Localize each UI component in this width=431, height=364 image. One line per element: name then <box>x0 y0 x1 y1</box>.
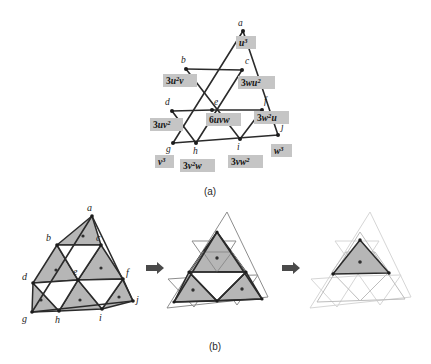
step-2-dot-top <box>215 256 218 259</box>
step-2-dot-right <box>240 287 243 290</box>
b-vertex-label-g: g <box>22 313 27 324</box>
b-vertex-label-b: b <box>46 232 51 243</box>
step-2-dot-left <box>191 288 194 291</box>
step-3-node-top <box>358 238 361 241</box>
b-vertex-label-d: d <box>22 271 28 282</box>
node-b-f <box>121 277 125 281</box>
vertex-label-g: g <box>166 144 171 154</box>
node-b-h <box>57 309 61 313</box>
centroid-dot-dgh <box>39 298 42 301</box>
b-vertex-label-c: c <box>96 232 101 243</box>
node-a <box>241 29 245 33</box>
term-f-text: 3w2u <box>257 112 277 124</box>
term-j: w3 <box>271 144 292 157</box>
centroid-dot-abc <box>81 234 84 237</box>
node-h <box>194 141 198 145</box>
term-b: 3u2v <box>163 74 197 87</box>
vertex-label-a: a <box>238 18 243 28</box>
term-i: 3vw2 <box>228 155 263 168</box>
node-b-i <box>100 307 104 311</box>
node-b-c <box>99 243 103 247</box>
panel-b-step-3 <box>310 212 411 308</box>
node-b <box>184 67 188 71</box>
vertex-label-b: b <box>181 55 186 65</box>
term-h: 3v2w <box>180 159 215 172</box>
node-i <box>238 137 242 141</box>
vertex-label-i: i <box>237 142 240 152</box>
term-a: u3 <box>236 36 256 49</box>
step-3-final-dot <box>358 260 362 264</box>
b-vertex-label-f: f <box>126 267 130 278</box>
term-c: 3wu2 <box>238 76 275 89</box>
centroid-dot-ehi <box>78 298 81 301</box>
step-2-node-top <box>215 230 218 233</box>
figure-root: a b c d e f g h i j u3 3u2v <box>0 0 431 364</box>
panel-a: a b c d e f g h i j u3 3u2v <box>150 18 292 197</box>
step-2-node-br <box>260 297 263 300</box>
edge-b-c <box>186 69 242 70</box>
node-b-e <box>76 278 80 282</box>
node-b-g <box>30 310 34 314</box>
node-b-a <box>90 214 94 218</box>
node-c <box>240 68 244 72</box>
step-3-node-bl <box>331 272 334 275</box>
vertex-label-h: h <box>193 146 198 156</box>
node-g <box>171 141 175 145</box>
node-b-d <box>31 281 35 285</box>
panel-b-step-1: a b c d e f g h i j <box>22 202 139 325</box>
b-vertex-label-i: i <box>99 312 102 323</box>
node-b-b <box>55 243 59 247</box>
step-2-node-bl <box>172 300 175 303</box>
step-2-node-ml <box>187 270 190 273</box>
caption-b: (b) <box>209 341 221 352</box>
node-d <box>170 109 174 113</box>
term-e: 6uvw <box>206 113 241 126</box>
figure-svg: a b c d e f g h i j u3 3u2v <box>0 0 431 364</box>
step-2-node-mr <box>244 270 247 273</box>
step-3-ghost-edge-dh <box>311 279 337 307</box>
b-vertex-label-j: j <box>134 294 139 305</box>
b-vertex-label-a: a <box>87 202 92 213</box>
b-vertex-label-h: h <box>55 314 60 325</box>
arrow-1-glyph <box>146 262 164 274</box>
arrow-2 <box>282 262 300 274</box>
step-3-node-br <box>387 271 390 274</box>
vertex-label-d: d <box>165 97 170 107</box>
panel-b-step-2 <box>167 212 268 308</box>
step-2-node-mb <box>215 299 218 302</box>
node-b-j <box>131 299 135 303</box>
vertex-label-c: c <box>245 56 250 66</box>
centroid-dot-fij <box>117 295 120 298</box>
vertex-label-e: e <box>214 97 218 107</box>
arrow-2-glyph <box>282 262 300 274</box>
term-b-text: 3u2v <box>166 75 184 87</box>
node-e <box>210 108 214 112</box>
term-e-text: 6uvw <box>209 115 230 125</box>
caption-a: (a) <box>204 186 216 197</box>
b-vertex-label-e: e <box>73 266 78 277</box>
term-f: 3w2u <box>254 111 289 124</box>
centroid-dot-cef <box>99 266 102 269</box>
step-3-ghost-edge-fi <box>380 275 401 305</box>
term-g: v3 <box>155 155 174 168</box>
node-j <box>276 133 280 137</box>
arrow-1 <box>146 262 164 274</box>
centroid-dot-bde <box>54 268 57 271</box>
term-d: 3uv2 <box>150 118 183 131</box>
